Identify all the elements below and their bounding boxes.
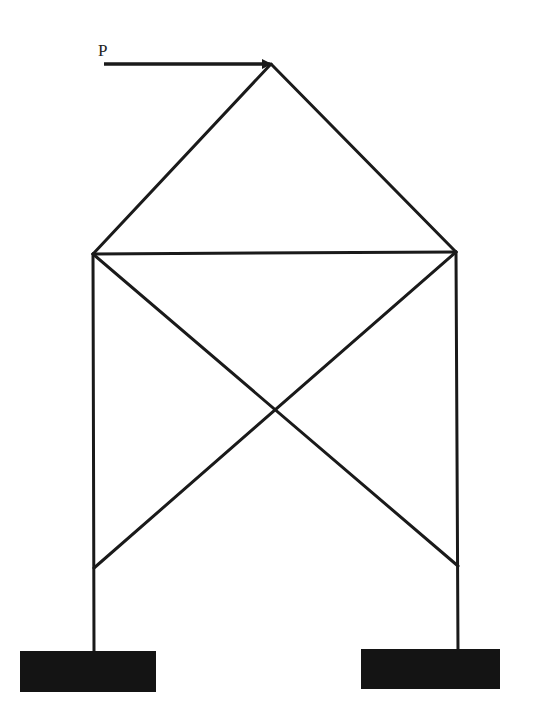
- truss-members: [93, 64, 458, 652]
- member-top-chord: [93, 252, 456, 254]
- left-footing: [20, 651, 156, 692]
- member-left-column: [93, 254, 94, 652]
- member-right-column: [456, 252, 458, 650]
- load-label: P: [98, 41, 107, 60]
- truss-diagram: P: [0, 0, 558, 725]
- member-right-rafter: [271, 64, 456, 252]
- member-left-rafter: [93, 64, 271, 254]
- right-footing: [361, 649, 500, 689]
